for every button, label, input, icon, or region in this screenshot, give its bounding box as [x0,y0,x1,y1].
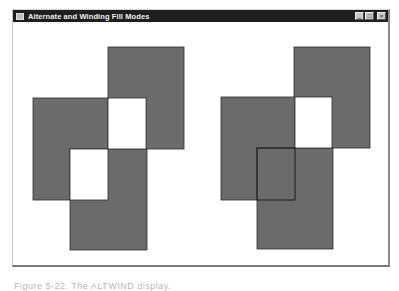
unfilled-region [70,149,108,200]
alternate-fill-figure [33,47,184,250]
unfilled-region [108,98,146,149]
figure-caption: Figure 5-22. The ALTWIND display. [14,281,171,291]
unfilled-region [295,97,332,148]
app-window: Alternate and Winding Fill Modes _ □ × [12,9,390,267]
client-area [13,22,388,265]
winding-fill-figure [221,47,370,249]
drawing-canvas [1,1,399,288]
